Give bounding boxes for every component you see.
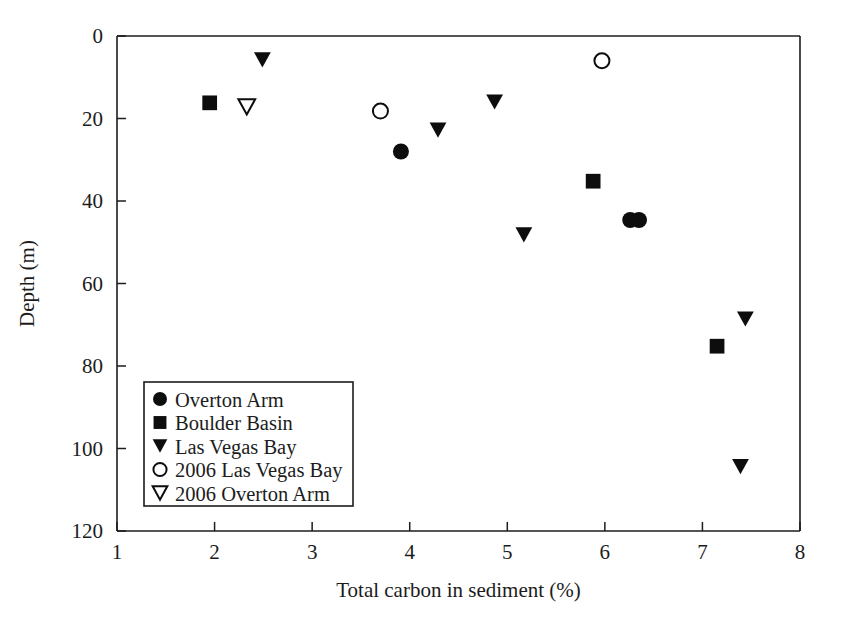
series-boulder-basin — [202, 95, 724, 353]
legend-label: Las Vegas Bay — [175, 436, 297, 459]
data-point — [238, 99, 255, 114]
x-tick-label: 1 — [112, 540, 123, 564]
x-tick-label: 2 — [209, 540, 220, 564]
data-point — [393, 144, 409, 160]
legend-label: 2006 Las Vegas Bay — [175, 459, 343, 482]
x-axis-title: Total carbon in sediment (%) — [336, 578, 581, 602]
y-tick-label: 20 — [82, 107, 103, 131]
legend-marker-filled-square — [154, 416, 167, 429]
series-2006-overton-arm — [238, 99, 255, 114]
series-2006-las-vegas-bay — [373, 53, 610, 118]
y-axis-title: Depth (m) — [15, 240, 39, 327]
data-point — [373, 104, 388, 119]
x-tick-label: 3 — [307, 540, 318, 564]
data-point — [515, 227, 532, 242]
series-overton-arm — [393, 144, 647, 228]
x-tick-label: 5 — [502, 540, 513, 564]
data-point — [586, 174, 601, 189]
plot-canvas: 12345678020406080100120 Overton ArmBould… — [0, 0, 847, 627]
legend-marker-filled-circle — [153, 392, 167, 406]
legend-marker-open-circle — [153, 463, 166, 476]
y-tick-label: 100 — [72, 437, 104, 461]
y-tick-label: 80 — [82, 354, 103, 378]
data-point — [594, 53, 609, 68]
data-point — [254, 52, 271, 67]
chart-legend: Overton ArmBoulder BasinLas Vegas Bay200… — [144, 382, 353, 506]
y-tick-label: 40 — [82, 189, 103, 213]
legend-label: 2006 Overton Arm — [175, 483, 330, 505]
y-tick-label: 0 — [93, 24, 104, 48]
data-point — [631, 212, 647, 228]
y-tick-label: 60 — [82, 272, 103, 296]
scatter-plot-figure: 12345678020406080100120 Overton ArmBould… — [0, 0, 847, 627]
legend-label: Overton Arm — [175, 389, 284, 411]
x-tick-label: 7 — [697, 540, 708, 564]
data-point — [486, 94, 503, 109]
y-tick-label: 120 — [72, 519, 104, 543]
data-point — [430, 122, 447, 137]
x-tick-label: 6 — [600, 540, 611, 564]
data-point — [737, 311, 754, 326]
legend-label: Boulder Basin — [175, 412, 293, 434]
data-point — [732, 459, 749, 474]
x-tick-label: 4 — [404, 540, 415, 564]
x-tick-label: 8 — [795, 540, 806, 564]
data-point — [202, 95, 217, 110]
data-point — [710, 339, 725, 354]
